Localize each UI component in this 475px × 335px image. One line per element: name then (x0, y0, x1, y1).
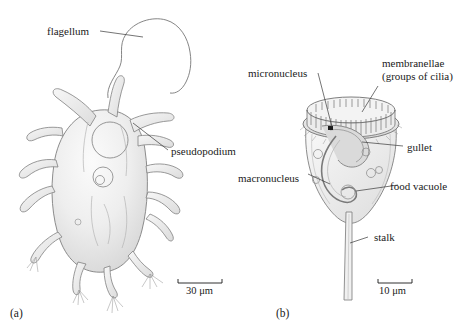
scale-bar-a (178, 279, 222, 283)
scale-label-b: 10 μm (379, 285, 406, 296)
scale-bar-b (378, 279, 412, 283)
stalk-leader (350, 237, 368, 243)
label-flagellum: flagellum (47, 25, 89, 38)
label-membranellae-sub: (groups of cilia) (382, 70, 453, 83)
label-food-vacuole: food vacuole (390, 180, 447, 193)
caption-b: (b) (276, 307, 289, 319)
label-micronucleus: micronucleus (248, 67, 307, 80)
label-pseudopodium: pseudopodium (171, 145, 236, 158)
label-membranellae: membranellae (382, 57, 444, 70)
amoeba-drawing (19, 19, 222, 313)
protist-figure: flagellum pseudopodium 30 μm (a) micronu… (0, 0, 475, 335)
label-macronucleus: macronucleus (238, 172, 299, 185)
amoeba-body (52, 110, 147, 272)
scale-label-a: 30 μm (186, 285, 213, 296)
flagellum-leader (100, 31, 143, 37)
label-gullet: gullet (407, 141, 432, 154)
caption-a: (a) (10, 307, 23, 319)
label-stalk: stalk (374, 231, 395, 244)
